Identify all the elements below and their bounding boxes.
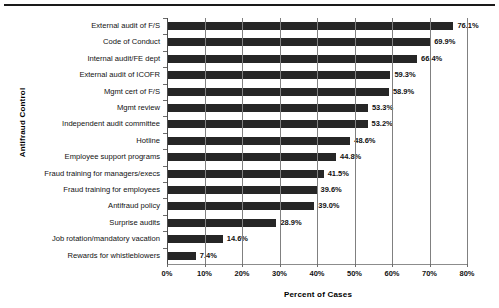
- x-tick-label: 20%: [222, 269, 262, 278]
- bar: [168, 88, 389, 96]
- bar: [168, 219, 276, 227]
- page-rule-divider: [4, 4, 495, 6]
- gridline-40: [317, 18, 318, 264]
- bar-value-label: 53.2%: [372, 116, 393, 132]
- category-label: Internal audit/FE dept: [0, 51, 160, 67]
- x-tick-mark: [355, 264, 356, 267]
- x-tick-label: 60%: [372, 269, 412, 278]
- gridline-10: [205, 18, 206, 264]
- chart-figure: Antifraud Control Percent of Cases Exter…: [0, 0, 499, 308]
- bar: [168, 153, 336, 161]
- bar-row: External audit of ICOFR59.3%: [0, 67, 499, 83]
- x-tick-label: 0%: [147, 269, 187, 278]
- bar-row: Job rotation/mandatory vacation14.6%: [0, 231, 499, 247]
- bar-row: Antifraud policy39.0%: [0, 198, 499, 214]
- bar: [168, 170, 324, 178]
- x-tick-mark: [167, 264, 168, 267]
- bar-row: Internal audit/FE dept66.4%: [0, 51, 499, 67]
- bar: [168, 104, 368, 112]
- bar-row: Surprise audits28.9%: [0, 215, 499, 231]
- category-label: Fraud training for managers/execs: [0, 166, 160, 182]
- x-tick-mark: [430, 264, 431, 267]
- bar-value-label: 7.4%: [200, 248, 217, 264]
- bar-value-label: 59.3%: [394, 67, 415, 83]
- x-tick-mark: [242, 264, 243, 267]
- category-label: Independent audit committee: [0, 116, 160, 132]
- bar: [168, 137, 350, 145]
- x-tick-label: 50%: [335, 269, 375, 278]
- bar-row: External audit of F/S76.1%: [0, 18, 499, 34]
- category-label: Job rotation/mandatory vacation: [0, 231, 160, 247]
- gridline-50: [355, 18, 356, 264]
- bar-value-label: 76.1%: [457, 18, 478, 34]
- category-label: Surprise audits: [0, 215, 160, 231]
- bar-value-label: 14.6%: [227, 231, 248, 247]
- bar: [168, 235, 223, 243]
- x-tick-label: 70%: [410, 269, 450, 278]
- bar: [168, 252, 196, 260]
- bar-value-label: 53.3%: [372, 100, 393, 116]
- category-label: Employee support programs: [0, 149, 160, 165]
- x-tick-label: 10%: [185, 269, 225, 278]
- bar-value-label: 44.8%: [340, 149, 361, 165]
- bar-row: Mgmt cert of F/S58.9%: [0, 84, 499, 100]
- bar: [168, 22, 453, 30]
- bar-row: Independent audit committee53.2%: [0, 116, 499, 132]
- x-tick-mark: [317, 264, 318, 267]
- bar-row: Mgmt review53.3%: [0, 100, 499, 116]
- bar-value-label: 48.6%: [354, 133, 375, 149]
- category-label: Code of Conduct: [0, 34, 160, 50]
- bar-value-label: 66.4%: [421, 51, 442, 67]
- gridline-60: [392, 18, 393, 264]
- x-tick-label: 30%: [260, 269, 300, 278]
- gridline-0: [167, 18, 168, 264]
- gridline-30: [280, 18, 281, 264]
- x-axis-title: Percent of Cases: [168, 290, 468, 299]
- bar-value-label: 58.9%: [393, 84, 414, 100]
- category-label: Mgmt cert of F/S: [0, 84, 160, 100]
- bar: [168, 120, 368, 128]
- gridline-80: [467, 18, 468, 264]
- category-label: Fraud training for employees: [0, 182, 160, 198]
- x-tick-mark: [467, 264, 468, 267]
- category-label: Rewards for whistleblowers: [0, 248, 160, 264]
- bar-value-label: 39.0%: [318, 198, 339, 214]
- bar: [168, 38, 430, 46]
- bar-row: Hotline48.6%: [0, 133, 499, 149]
- bar-row: Fraud training for employees39.6%: [0, 182, 499, 198]
- bar-row: Code of Conduct69.9%: [0, 34, 499, 50]
- x-tick-label: 40%: [297, 269, 337, 278]
- category-label: Hotline: [0, 133, 160, 149]
- bar-row: Rewards for whistleblowers7.4%: [0, 248, 499, 264]
- bar-value-label: 41.5%: [328, 166, 349, 182]
- bar-value-label: 28.9%: [280, 215, 301, 231]
- x-tick-label: 80%: [447, 269, 487, 278]
- x-tick-mark: [205, 264, 206, 267]
- category-label: Mgmt review: [0, 100, 160, 116]
- bar-row: Fraud training for managers/execs41.5%: [0, 166, 499, 182]
- gridline-70: [430, 18, 431, 264]
- x-tick-mark: [280, 264, 281, 267]
- category-label: External audit of F/S: [0, 18, 160, 34]
- x-tick-mark: [392, 264, 393, 267]
- bar-value-label: 69.9%: [434, 34, 455, 50]
- gridline-20: [242, 18, 243, 264]
- category-label: Antifraud policy: [0, 198, 160, 214]
- category-label: External audit of ICOFR: [0, 67, 160, 83]
- bar-value-label: 39.6%: [321, 182, 342, 198]
- bar-row: Employee support programs44.8%: [0, 149, 499, 165]
